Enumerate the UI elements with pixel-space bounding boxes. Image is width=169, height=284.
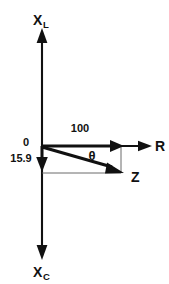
angle-theta-label: θ xyxy=(88,148,95,163)
phasor-diagram-canvas: X L X C R 0 15.9 100 θ Z xyxy=(0,0,169,284)
origin-label: 0 xyxy=(23,136,29,148)
capacitive-axis-label: X xyxy=(33,264,43,280)
impedance-vector-shaft xyxy=(42,147,112,167)
capacitive-axis-arrowhead-icon xyxy=(37,245,48,260)
resistance-axis-arrowhead-icon xyxy=(138,141,152,151)
phasor-diagram: X L X C R 0 15.9 100 θ Z xyxy=(0,0,169,284)
resistance-value-label: 100 xyxy=(71,122,89,134)
reactance-vector-arrowhead-icon xyxy=(36,157,48,172)
resistance-vector-arrowhead-icon xyxy=(110,140,124,152)
reactance-value-label: 15.9 xyxy=(10,152,31,164)
impedance-vector-label: Z xyxy=(131,169,140,185)
inductive-axis-label-subscript: L xyxy=(43,19,49,30)
inductive-axis-arrowhead-icon xyxy=(37,28,48,43)
inductive-axis-label: X xyxy=(33,12,43,28)
resistance-axis-label: R xyxy=(155,138,165,154)
capacitive-axis-label-subscript: C xyxy=(43,271,50,282)
